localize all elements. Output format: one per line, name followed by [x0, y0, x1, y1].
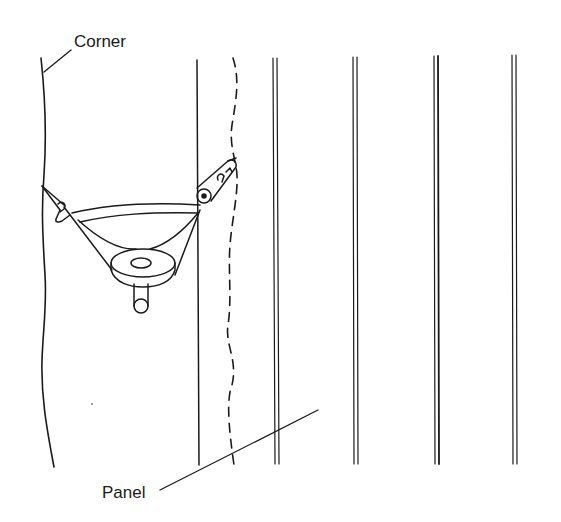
- corner-wall-line: [41, 58, 54, 467]
- panel-edge-line: [197, 60, 199, 465]
- panel-leader-line: [160, 410, 318, 490]
- corner-leader-line: [44, 50, 71, 72]
- diagram-canvas: Corner Panel: [0, 0, 561, 522]
- scribe-mark-line: [228, 58, 238, 465]
- corner-label: Corner: [74, 33, 126, 50]
- panel-label: Panel: [102, 484, 145, 501]
- scriber-compass-tool: [42, 158, 236, 313]
- print-speck: [91, 403, 93, 405]
- scribing-diagram: [0, 0, 561, 522]
- panel-grooves: [273, 55, 517, 464]
